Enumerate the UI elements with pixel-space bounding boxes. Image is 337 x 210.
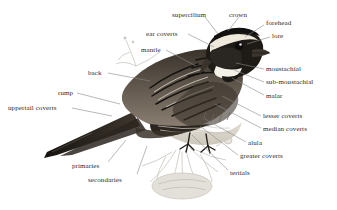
label-forehead: forehead <box>266 20 291 27</box>
label-lesser-coverts: lesser coverts <box>263 113 302 120</box>
label-uppertail-coverts: uppertail coverts <box>8 105 57 112</box>
label-rump: rump <box>58 90 73 97</box>
label-back: back <box>88 70 102 77</box>
label-supercilium: supercilium <box>172 12 206 19</box>
bird-anatomy-diagram: superciliumcrownforeheadloreear covertsm… <box>0 0 337 210</box>
leader-line-supercilium <box>205 17 218 34</box>
leader-line-secondaries <box>137 146 147 174</box>
leader-line-ear-coverts <box>188 34 214 47</box>
label-crown: crown <box>229 12 247 19</box>
leader-line-primaries <box>108 140 126 162</box>
label-mantle: mantle <box>141 47 161 54</box>
label-tertials: tertials <box>230 170 250 177</box>
label-malar: malar <box>266 93 282 100</box>
label-moustachial: moustachial <box>266 66 301 73</box>
label-median-coverts: median coverts <box>263 126 307 133</box>
label-secondaries: secondaries <box>88 177 122 184</box>
label-alula: alula <box>248 140 262 147</box>
label-greater-coverts: greater coverts <box>240 153 283 160</box>
label-primaries: primaries <box>72 163 99 170</box>
label-ear-coverts: ear coverts <box>146 31 178 38</box>
label-sub-moustachial: sub-moustachial <box>266 79 313 86</box>
leader-line-rump <box>77 93 120 104</box>
tail <box>44 112 146 158</box>
label-lore: lore <box>272 33 283 40</box>
leader-line-uppertail-coverts <box>72 108 112 116</box>
